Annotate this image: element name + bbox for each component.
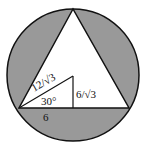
height-label: 6/√3 <box>76 88 97 100</box>
base-label: 6 <box>43 111 49 123</box>
diagram-canvas: 12/√3 6/√3 30° 6 <box>0 0 147 147</box>
inscribed-triangle-diagram: 12/√3 6/√3 30° 6 <box>0 0 147 147</box>
angle-label: 30° <box>41 95 56 107</box>
